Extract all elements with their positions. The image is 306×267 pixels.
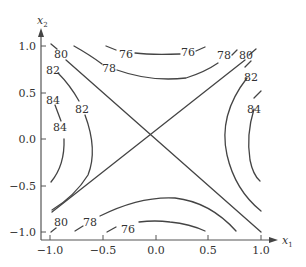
contour-label: 82 [244,71,258,84]
x-tick-label: 0.0 [147,244,165,257]
contour-label: 76 [119,48,133,61]
contour-label: 76 [121,223,135,236]
y-tick-label: 0.0 [19,133,37,146]
contour-label: 84 [53,121,67,134]
contour-label: 78 [83,216,97,229]
contour-label: 84 [46,94,60,107]
contour-label: 78 [102,62,116,75]
y-tick-labels: 1.0 0.5 0.0 −0.5 −1.0 [9,40,36,239]
x-tick-label: −0.5 [90,244,117,257]
contour-78-bottom [75,198,236,231]
contour-label: 76 [181,46,195,59]
contour-lines [51,44,261,232]
contour-label: 78 [217,49,231,62]
y-tick-label: 0.5 [19,87,37,100]
y-tick-label: −1.0 [9,226,36,239]
x-axis-title: x1 [282,234,293,249]
y-tick-label: 1.0 [19,40,37,53]
contour-label: 80 [54,48,68,61]
contour-78-top [74,46,237,79]
contour-80-diagonal-up [52,60,245,212]
contour-label: 80 [239,49,253,62]
y-axis-title: x2 [37,14,48,29]
contour-84-left [51,105,64,182]
x-tick-label: 0.5 [199,244,217,257]
contour-labels: 80 82 84 82 84 78 76 76 78 80 82 84 80 7… [46,46,261,236]
contour-80-diagonal-down [66,60,261,232]
contour-label: 80 [54,216,68,229]
y-axis-arrow-icon [38,28,44,37]
x-tick-label: −1.0 [37,244,64,257]
contour-label: 82 [75,103,89,116]
contour-label: 82 [46,64,60,77]
contour-label: 84 [247,103,261,116]
x-axis-arrow-icon [269,237,278,243]
contour-plot: −1.0 −0.5 0.0 0.5 1.0 1.0 0.5 0.0 −0.5 −… [0,0,306,267]
axes [41,34,272,240]
y-tick-label: −0.5 [9,180,36,193]
x-tick-label: 1.0 [252,244,270,257]
x-ticks [50,235,261,240]
x-tick-labels: −1.0 −0.5 0.0 0.5 1.0 [37,244,270,257]
